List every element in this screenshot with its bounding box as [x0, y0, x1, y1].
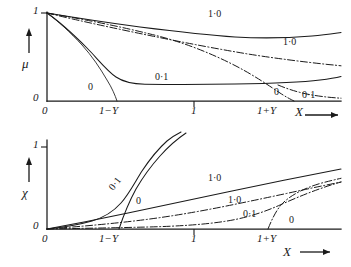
- top-y-tick-label-0: 0: [33, 92, 39, 103]
- bottom-curve-0p1-dashdot: [47, 182, 341, 229]
- top-curve-0p1-solid: [47, 13, 341, 84]
- bottom-curve-label-1p0-dashdot: 1·0: [228, 195, 241, 205]
- top-x-tick-label-1plusY: 1+Y: [257, 105, 276, 116]
- top-curve-label-0-dashdot: 0: [274, 87, 279, 97]
- bottom-x-axis-label: X: [283, 245, 291, 258]
- top-curve-label-0p1-solid: 0·1: [155, 72, 168, 82]
- bottom-panel: [26, 132, 341, 255]
- bottom-curve-label-1p0-solid: 1·0: [208, 173, 221, 183]
- chart-canvas: [0, 0, 351, 267]
- top-curve-label-0-solid: 0: [88, 82, 93, 92]
- top-panel: [26, 12, 341, 118]
- top-x-tick-label-0: 0: [42, 105, 48, 116]
- bottom-curve-label-0-dashdot: 0: [289, 215, 294, 225]
- bottom-x-tick-label-1: 1: [191, 233, 197, 244]
- bottom-curve-1p0-solid: [47, 169, 341, 229]
- top-x-tick-label-1minusY: 1−Y: [99, 105, 118, 116]
- top-x-tick-label-1: 1: [191, 105, 197, 116]
- bottom-y-axis-label: χ: [22, 186, 28, 199]
- bottom-curve-1p0-dashdot: [47, 182, 341, 229]
- top-y-axis-label: μ: [22, 57, 29, 70]
- top-curve-1p0-solid: [47, 13, 341, 38]
- top-curve-0-dashdot: [47, 13, 294, 101]
- bottom-x-tick-label-1minusY: 1−Y: [99, 233, 118, 244]
- bottom-curve-label-0p1-dashdot: 0·1: [243, 209, 256, 219]
- bottom-y-tick-label-1: 1: [33, 139, 39, 150]
- bottom-curve-label-0-solid: 0: [136, 196, 141, 206]
- bottom-x-tick-label-0: 0: [42, 233, 48, 244]
- figure-root: μ 1 0 0 1−Y 1 1+Y X 1·0 1·0 0·1 0 0 0·1 …: [0, 0, 351, 267]
- bottom-curve-0-solid: [119, 133, 186, 229]
- top-curve-label-1p0-dashdot: 1·0: [283, 37, 296, 47]
- bottom-x-tick-label-1plusY: 1+Y: [257, 233, 276, 244]
- bottom-x-axis-arrow-icon: [300, 249, 330, 255]
- bottom-y-tick-label-0: 0: [33, 220, 39, 231]
- top-curve-label-0p1-dashdot: 0·1: [302, 90, 315, 100]
- top-x-axis-arrow-icon: [305, 112, 338, 118]
- bottom-curve-0-dashdot: [268, 178, 341, 229]
- top-x-axis-label: X: [295, 105, 303, 118]
- top-y-tick-label-1: 1: [33, 5, 39, 16]
- bottom-y-axis-arrow-icon: [26, 157, 32, 182]
- top-y-axis-arrow-icon: [26, 28, 32, 53]
- top-curve-label-1p0-solid: 1·0: [208, 9, 221, 19]
